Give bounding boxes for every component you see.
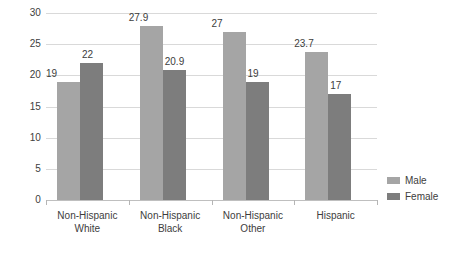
bar-group: 1922 xyxy=(46,13,129,200)
x-axis-tick xyxy=(212,200,213,205)
x-axis-category-label: Non-HispanicBlack xyxy=(129,210,212,235)
y-axis-tick-label: 25 xyxy=(1,39,41,49)
bar-female xyxy=(80,63,103,200)
x-axis-category-label: Non-HispanicWhite xyxy=(46,210,129,235)
x-axis-tick xyxy=(129,200,130,205)
bar-chart: 051015202530 192227.920.9271923.717 Non-… xyxy=(0,0,451,254)
x-axis-category-label: Non-HispanicOther xyxy=(212,210,295,235)
bar-value-label: 19 xyxy=(46,69,57,79)
legend-label: Male xyxy=(405,176,427,186)
legend-label: Female xyxy=(405,192,438,202)
y-axis: 051015202530 xyxy=(0,13,41,200)
legend-swatch-icon xyxy=(387,193,400,200)
y-axis-tick-label: 5 xyxy=(1,164,41,174)
x-axis: Non-HispanicWhiteNon-HispanicBlackNon-Hi… xyxy=(46,200,377,254)
x-axis-tick xyxy=(294,200,295,205)
bar-group: 2719 xyxy=(212,13,295,200)
category-label-line: Non-Hispanic xyxy=(46,210,129,223)
bar-male xyxy=(223,32,246,200)
bar-value-label: 23.7 xyxy=(294,39,313,49)
legend-swatch-icon xyxy=(387,177,400,184)
legend-item: Male xyxy=(387,174,451,187)
bar-group: 23.717 xyxy=(294,13,377,200)
y-axis-tick-label: 0 xyxy=(1,195,41,205)
bar-value-label: 27.9 xyxy=(129,13,148,23)
bar-value-label: 22 xyxy=(82,50,93,60)
y-axis-tick-label: 15 xyxy=(1,102,41,112)
plot-area: 192227.920.9271923.717 xyxy=(46,13,377,200)
bar-value-label: 20.9 xyxy=(165,57,184,67)
category-label-line: Non-Hispanic xyxy=(212,210,295,223)
bar-value-label: 17 xyxy=(330,81,341,91)
category-label-line: Non-Hispanic xyxy=(129,210,212,223)
bar-value-label: 19 xyxy=(248,69,259,79)
category-label-line: Black xyxy=(129,223,212,236)
chart-legend: MaleFemale xyxy=(387,174,451,206)
bar-male xyxy=(57,82,80,200)
category-label-line: Other xyxy=(212,223,295,236)
x-axis-tick xyxy=(46,200,47,205)
y-axis-tick-label: 10 xyxy=(1,133,41,143)
bar-value-label: 27 xyxy=(212,19,223,29)
bar-female xyxy=(163,70,186,200)
bar-male xyxy=(140,26,163,200)
legend-item: Female xyxy=(387,190,451,203)
bar-male xyxy=(305,52,328,200)
category-label-line: Hispanic xyxy=(294,210,377,223)
category-label-line: White xyxy=(46,223,129,236)
y-axis-tick-label: 30 xyxy=(1,8,41,18)
bar-group: 27.920.9 xyxy=(129,13,212,200)
y-axis-tick-label: 20 xyxy=(1,70,41,80)
x-axis-category-label: Hispanic xyxy=(294,210,377,223)
x-axis-tick xyxy=(377,200,378,205)
bar-female xyxy=(246,82,269,200)
bar-female xyxy=(328,94,351,200)
